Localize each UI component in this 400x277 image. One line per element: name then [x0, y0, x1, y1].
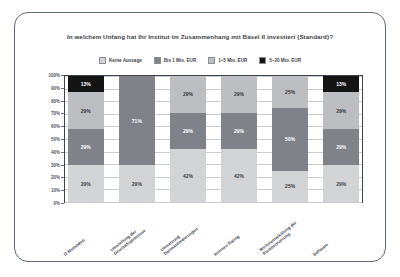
bar-segment-value-label: 25%	[285, 89, 295, 95]
legend-item[interactable]: Bis 1 Mio. EUR	[154, 57, 196, 64]
bar-segment[interactable]: 50%	[272, 108, 308, 171]
y-axis-tick-label: 100%	[48, 73, 60, 78]
y-axis-tick-label: 40%	[51, 149, 60, 154]
y-axis-tick-label: 60%	[51, 124, 60, 129]
y-axis-tick-label: 50%	[51, 137, 60, 142]
bar-segment[interactable]: 71%	[119, 76, 155, 165]
x-axis-label: Internes Rating	[212, 217, 261, 257]
bar-segment-value-label: 29%	[336, 108, 346, 114]
x-axis-label: Umstellung der Geschäftsprozesse	[109, 213, 161, 257]
legend-swatch-icon	[154, 57, 161, 64]
bar-segment-value-label: 29%	[81, 108, 91, 114]
legend-item[interactable]: Keine Aussage	[99, 57, 142, 64]
bar-segment-value-label: 29%	[234, 91, 244, 97]
bar-segment[interactable]: 29%	[170, 76, 206, 113]
y-axis-tick-label: 70%	[51, 111, 60, 116]
bar-segment[interactable]: 29%	[323, 165, 359, 202]
chart-plot-wrapper: 100%90%80%70%60%50%40%30%20%10%0% 13%29%…	[41, 75, 363, 203]
x-axis-label: Software	[312, 217, 361, 257]
gridline	[65, 126, 362, 127]
bar-segment[interactable]: 25%	[272, 76, 308, 108]
chart-title: In welchem Unfang hat Ihr Institut im Zu…	[15, 33, 385, 40]
bar-segment[interactable]: 29%	[119, 165, 155, 202]
bar-segment-value-label: 29%	[183, 91, 193, 97]
bar-segment[interactable]: 29%	[68, 92, 104, 129]
gridline	[65, 152, 362, 153]
y-axis-tick-label: 90%	[51, 85, 60, 90]
bar-segment-value-label: 29%	[81, 144, 91, 150]
chart-card: In welchem Unfang hat Ihr Institut im Zu…	[14, 12, 386, 262]
legend-swatch-icon	[259, 57, 266, 64]
legend-item[interactable]: 1–5 Mio. EUR	[208, 57, 247, 64]
x-axis-label: Umsetzung Datenanforderungen	[159, 213, 211, 257]
stacked-bar[interactable]: 71%29%	[119, 76, 155, 202]
bar-segment[interactable]: 25%	[272, 171, 308, 203]
legend-label: Bis 1 Mio. EUR	[164, 58, 196, 63]
bar-segment-value-label: 25%	[285, 183, 295, 189]
stacked-bar[interactable]: 13%29%29%29%	[323, 76, 359, 202]
legend-label: 1–5 Mio. EUR	[218, 58, 247, 63]
legend-item[interactable]: 5–20 Mio. EUR	[259, 57, 301, 64]
gridline	[65, 139, 362, 140]
bar-segment-value-label: 42%	[234, 173, 244, 179]
stacked-bar[interactable]: 25%50%25%	[272, 76, 308, 202]
bar-segment-value-label: 71%	[132, 118, 142, 124]
y-axis-tick-label: 0%	[53, 201, 60, 206]
bar-segment[interactable]: 29%	[221, 113, 257, 150]
bar-segment[interactable]: 29%	[68, 165, 104, 202]
stacked-bar[interactable]: 29%29%42%	[221, 76, 257, 202]
y-axis-tick-label: 20%	[51, 175, 60, 180]
x-axis-label: Weiterentwicklung der Risikosteuerung	[259, 213, 311, 257]
bar-segment[interactable]: 42%	[170, 149, 206, 202]
bar-segment-value-label: 29%	[132, 181, 142, 187]
bar-segment[interactable]: 29%	[323, 92, 359, 129]
y-axis: 100%90%80%70%60%50%40%30%20%10%0%	[41, 75, 61, 203]
legend-swatch-icon	[99, 57, 106, 64]
gridline	[65, 189, 362, 190]
x-axis-label: IT-Methoden	[63, 217, 112, 257]
bar-segment-value-label: 29%	[336, 181, 346, 187]
stacked-bar[interactable]: 13%29%29%29%	[68, 76, 104, 202]
gridline	[65, 177, 362, 178]
x-axis-labels: IT-MethodenUmstellung der Geschäftsproze…	[64, 203, 363, 265]
legend-swatch-icon	[208, 57, 215, 64]
bar-segment[interactable]: 29%	[170, 113, 206, 150]
bar-segment[interactable]: 29%	[323, 129, 359, 166]
gridline	[65, 164, 362, 165]
y-axis-tick-label: 30%	[51, 162, 60, 167]
y-axis-tick-label: 10%	[51, 188, 60, 193]
chart-legend: Keine AussageBis 1 Mio. EUR1–5 Mio. EUR5…	[15, 57, 385, 64]
y-axis-tick-label: 80%	[51, 98, 60, 103]
gridline	[65, 101, 362, 102]
bar-segment[interactable]: 13%	[323, 76, 359, 92]
stacked-bar[interactable]: 29%29%42%	[170, 76, 206, 202]
legend-label: 5–20 Mio. EUR	[269, 58, 301, 63]
bar-segment[interactable]: 29%	[221, 76, 257, 113]
bar-segment-value-label: 29%	[234, 128, 244, 134]
legend-label: Keine Aussage	[109, 58, 142, 63]
bar-segment-value-label: 50%	[285, 136, 295, 142]
bar-segment[interactable]: 29%	[68, 129, 104, 166]
plot-area: 13%29%29%29%71%29%29%29%42%29%29%42%25%5…	[64, 75, 363, 203]
bar-segment[interactable]: 13%	[68, 76, 104, 92]
bar-segment-value-label: 42%	[183, 173, 193, 179]
bar-segment-value-label: 29%	[81, 181, 91, 187]
gridline	[65, 89, 362, 90]
gridline	[65, 114, 362, 115]
bar-segment-value-label: 13%	[81, 81, 91, 87]
bar-segment-value-label: 29%	[336, 144, 346, 150]
bar-segment-value-label: 29%	[183, 128, 193, 134]
gridline	[65, 76, 362, 77]
bar-segment[interactable]: 42%	[221, 149, 257, 202]
bar-segment-value-label: 13%	[336, 81, 346, 87]
